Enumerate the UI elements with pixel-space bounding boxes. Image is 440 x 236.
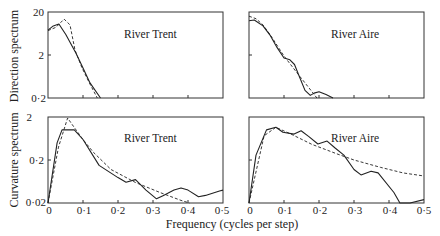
xtick-right-0: 0 [247,204,253,216]
xtick-right-0.4: 0·4 [383,204,398,216]
ytick-top-2: 2 [39,49,45,61]
x-axis-title: Frequency (cycles per step) [166,217,298,231]
ytick-top-20: 20 [33,6,45,18]
ytick-bottom-0.2: 0·2 [29,154,44,166]
panel-curvature-aire [249,117,424,203]
fitted-curve-dashed [48,118,189,203]
xtick-left-0.1: 0·1 [77,204,92,216]
xticks-left: 0 0·1 0·2 0·3 0·4 0·5 [46,204,230,216]
fitted-curve-dashed [48,19,97,98]
figure-canvas: Direction spectrum Curvature spectrum 20… [0,0,440,236]
panel-direction-trent [48,12,223,98]
xtick-right-0.5: 0·5 [417,204,432,216]
xtick-left-0.5: 0·5 [215,204,230,216]
plot-frame [249,12,424,98]
panel-curvature-trent [48,117,223,203]
xtick-right-0.2: 0·2 [313,204,328,216]
plot-frame [48,12,223,98]
plot-frame [249,117,424,203]
xtick-right-0.3: 0·3 [348,204,363,216]
xtick-right-0.1: 0·1 [278,204,293,216]
observed-curve-solid [249,20,333,98]
xtick-left-0: 0 [46,204,52,216]
xticks-right: 0 0·1 0·2 0·3 0·4 0·5 [247,204,432,216]
xtick-left-0.2: 0·2 [111,204,126,216]
ytick-bottom-2: 2 [27,111,33,123]
panel-title-curvature-trent: River Trent [124,132,178,144]
observed-curve-solid [48,24,101,98]
xtick-left-0.3: 0·3 [146,204,161,216]
xtick-left-0.4: 0·4 [181,204,196,216]
ytick-top-0.2: 0·2 [31,92,46,104]
panel-title-direction-aire: River Aire [331,28,379,40]
panel-direction-aire [249,12,424,98]
ytick-bottom-0.02: 0·02 [26,196,46,208]
y-axis-title-curvature: Curvature spectrum [7,112,21,208]
panel-title-direction-trent: River Trent [124,28,178,40]
y-axis-title-direction: Direction spectrum [7,9,21,102]
panel-title-curvature-aire: River Aire [331,132,379,144]
